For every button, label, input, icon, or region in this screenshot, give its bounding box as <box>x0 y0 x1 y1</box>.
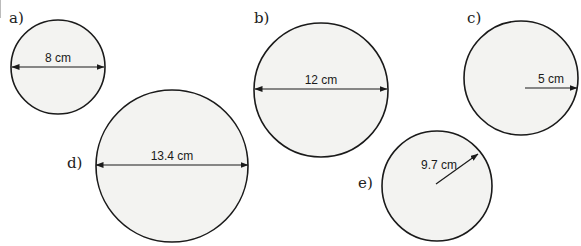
circle-d: 13.4 cm <box>96 90 248 242</box>
label-b: b) <box>254 9 269 27</box>
circles-figure: 8 cm 12 cm 5 cm 13.4 cm 9.7 cm <box>0 0 581 246</box>
circle-diagram: 8 cm 12 cm 5 cm 13.4 cm 9.7 cm a) b) c) <box>0 0 581 246</box>
label-a: a) <box>9 9 24 27</box>
measurement-b: 12 cm <box>305 73 338 87</box>
circle-b: 12 cm <box>254 23 388 157</box>
label-d: d) <box>67 154 82 172</box>
label-c: c) <box>467 9 481 27</box>
circle-c: 5 cm <box>464 21 578 135</box>
measurement-c: 5 cm <box>538 72 564 86</box>
measurement-a: 8 cm <box>45 51 71 65</box>
circle-e: 9.7 cm <box>382 131 492 241</box>
measurement-e: 9.7 cm <box>421 158 457 172</box>
measurement-d: 13.4 cm <box>151 149 194 163</box>
label-e: e) <box>358 174 373 192</box>
circle-a: 8 cm <box>11 20 105 114</box>
